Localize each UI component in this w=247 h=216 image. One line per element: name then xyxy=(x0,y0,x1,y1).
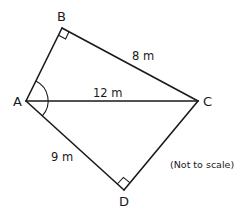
right-angle-marker-d xyxy=(117,177,130,184)
quadrilateral-diagram: B A C D 8 m 12 m 9 m (Not to scale) xyxy=(0,0,247,216)
vertex-label-b: B xyxy=(57,9,66,24)
segment-ad xyxy=(26,101,124,190)
length-label-bc: 8 m xyxy=(132,49,154,63)
vertex-label-c: C xyxy=(203,94,212,109)
vertex-label-d: D xyxy=(119,194,129,209)
length-label-ad: 9 m xyxy=(51,150,73,164)
length-label-ac: 12 m xyxy=(93,86,123,100)
segment-bc xyxy=(62,28,198,101)
not-to-scale-note: (Not to scale) xyxy=(170,159,234,170)
diagram-canvas: B A C D 8 m 12 m 9 m (Not to scale) xyxy=(0,0,247,216)
segment-dc xyxy=(124,101,198,190)
vertex-label-a: A xyxy=(13,94,22,109)
segment-ab xyxy=(26,28,62,101)
